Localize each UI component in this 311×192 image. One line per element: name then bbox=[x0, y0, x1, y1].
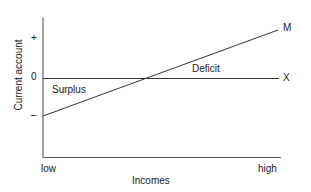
x-tick-label-low: low bbox=[41, 164, 56, 174]
curve-m-line bbox=[43, 30, 278, 116]
current-account-vs-income-chart: Current account + 0 – M X Surplus Defici… bbox=[0, 0, 311, 192]
y-tick-label-minus: – bbox=[31, 110, 37, 120]
region-label-surplus: Surplus bbox=[52, 85, 86, 95]
region-label-deficit: Deficit bbox=[192, 64, 220, 74]
y-tick-label-zero: 0 bbox=[31, 72, 37, 82]
y-tick-label-plus: + bbox=[31, 33, 37, 43]
curve-label-m: M bbox=[283, 23, 291, 33]
curve-label-x: X bbox=[283, 73, 290, 83]
y-axis-title: Current account bbox=[12, 15, 26, 135]
x-tick-label-high: high bbox=[258, 164, 277, 174]
x-axis-title: Incomes bbox=[132, 176, 170, 186]
